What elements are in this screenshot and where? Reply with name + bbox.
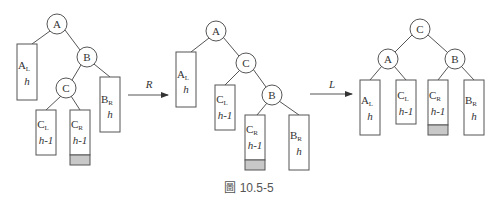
subtree-c-l: CL h-1 — [215, 85, 235, 130]
svg-text:h-1: h-1 — [248, 139, 263, 151]
node-c-label: C — [62, 82, 69, 94]
svg-text:h-1: h-1 — [218, 109, 233, 121]
subtree-a-l: AL h — [360, 80, 380, 135]
subtree-c-r: CR h-1 — [245, 115, 265, 170]
height-increase-shading — [245, 160, 265, 170]
tree-after-l: C A B AL h CL h-1 CR h-1 BR h — [360, 19, 484, 135]
subtree-c-l: CL h-1 — [36, 110, 56, 155]
svg-text:h-1: h-1 — [39, 134, 54, 146]
figure-caption: 圖 10.5-5 — [0, 178, 498, 195]
svg-text:h: h — [24, 75, 30, 87]
svg-text:h: h — [107, 108, 113, 120]
arrow-r: R — [128, 78, 168, 95]
subtree-a-l: AL h — [176, 52, 196, 107]
arrow-l: L — [310, 78, 352, 94]
subtree-b-r: BR h — [464, 80, 484, 135]
node-a-label: A — [384, 53, 392, 65]
tree-before: A B C AL h BR h CL h-1 CR h-1 — [17, 14, 120, 165]
svg-text:h-1: h-1 — [73, 134, 88, 146]
subtree-b-r: BR h — [100, 77, 120, 132]
node-c-label: C — [416, 23, 423, 35]
node-b-label: B — [451, 53, 458, 65]
node-a-label: A — [53, 18, 61, 30]
tree-after-r: A C B AL h CL h-1 CR h-1 BR h — [176, 21, 309, 170]
subtree-c-l: CL h-1 — [396, 80, 416, 124]
arrow-l-label: L — [328, 78, 335, 90]
node-b-label: B — [83, 51, 90, 63]
node-b-label: B — [268, 89, 275, 101]
node-a-label: A — [212, 25, 220, 37]
svg-text:h: h — [296, 145, 302, 157]
svg-text:h: h — [183, 83, 189, 95]
svg-text:h-1: h-1 — [431, 105, 446, 117]
subtree-b-r: BR h — [289, 115, 309, 170]
arrow-r-label: R — [145, 78, 153, 90]
node-c-label: C — [242, 57, 249, 69]
height-increase-shading — [428, 125, 448, 135]
subtree-c-r: CR h-1 — [428, 80, 448, 135]
svg-text:h: h — [367, 110, 373, 122]
svg-text:h-1: h-1 — [399, 105, 414, 117]
height-increase-shading — [70, 155, 90, 165]
svg-text:h: h — [471, 110, 477, 122]
subtree-a-l: AL h — [17, 44, 37, 100]
subtree-c-r: CR h-1 — [70, 110, 90, 165]
rotation-diagram: A B C AL h BR h CL h-1 CR h-1 — [0, 0, 498, 203]
